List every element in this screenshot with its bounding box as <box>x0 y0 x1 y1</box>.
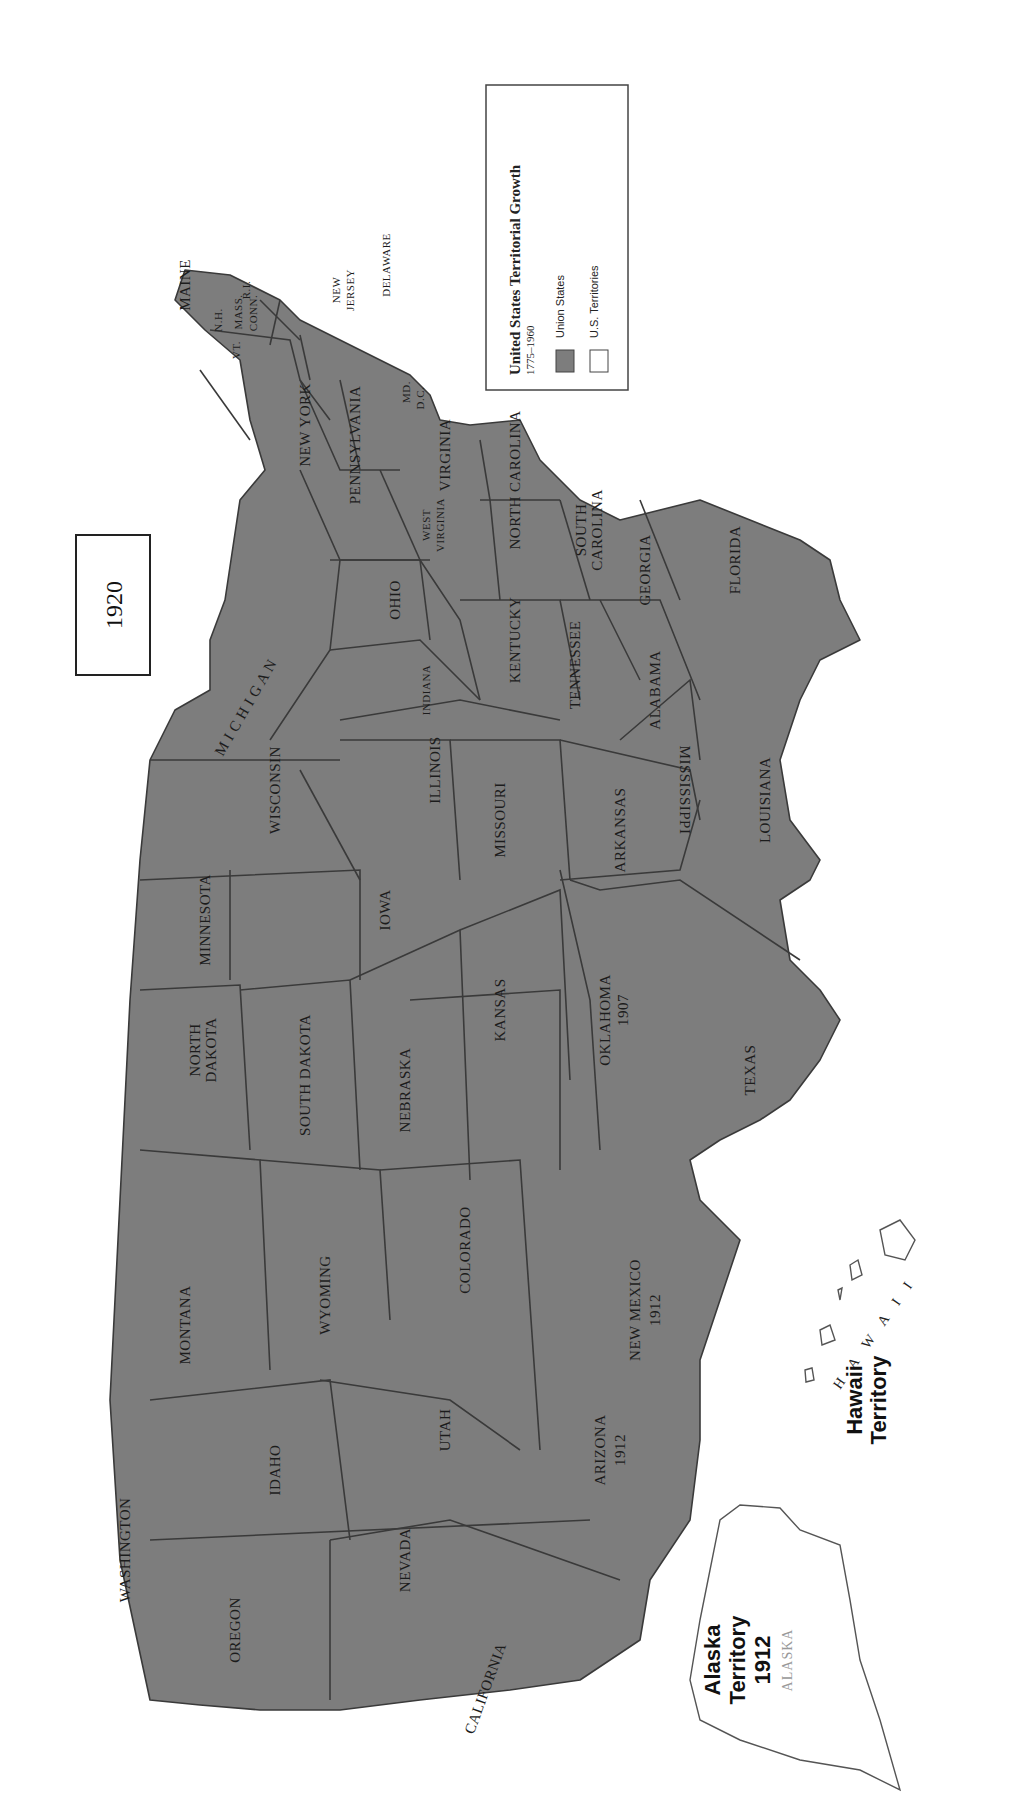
label-mississippi: MISSISSIPPI <box>677 746 693 835</box>
label-virginia: VIRGINIA <box>437 419 453 491</box>
label-conn: CONN. <box>247 295 259 331</box>
label-tennessee: TENNESSEE <box>567 621 583 710</box>
label-arizona-year: 1912 <box>612 1434 628 1466</box>
label-nebraska: NEBRASKA <box>397 1048 413 1133</box>
contiguous-us <box>110 270 860 1710</box>
label-new-mexico: NEW MEXICO <box>627 1259 643 1361</box>
label-ri: R.I. <box>240 281 252 300</box>
legend-label-territories: U.S. Territories <box>588 265 600 338</box>
label-north-carolina: NORTH CAROLINA <box>507 410 523 549</box>
label-south-carolina-1: SOUTH <box>573 504 589 557</box>
label-vt: VT. <box>230 341 242 359</box>
legend-swatch-union <box>556 350 574 372</box>
label-utah: UTAH <box>437 1409 453 1451</box>
label-texas: TEXAS <box>742 1045 758 1096</box>
hawaii-territory: H A W A I I Hawaii Territory <box>805 1220 919 1444</box>
label-arkansas: ARKANSAS <box>612 788 628 873</box>
label-new-jersey-2: JERSEY <box>344 269 356 311</box>
alaska-territory: Alaska Territory 1912 ALASKA <box>690 1505 900 1790</box>
label-indiana: INDIANA <box>420 665 432 716</box>
label-illinois: ILLINOIS <box>427 736 443 803</box>
alaska-label-2: Territory <box>725 1615 750 1705</box>
label-wyoming: WYOMING <box>317 1255 333 1334</box>
label-south-carolina-2: CAROLINA <box>589 489 605 571</box>
year-label: 1920 <box>101 581 127 629</box>
label-pennsylvania: PENNSYLVANIA <box>347 386 363 505</box>
label-georgia: GEORGIA <box>637 535 653 606</box>
label-colorado: COLORADO <box>457 1206 473 1293</box>
label-oregon: OREGON <box>227 1597 243 1663</box>
hawaii-label-1: Hawaii <box>842 1365 867 1435</box>
label-maine: MAINE <box>177 259 193 311</box>
label-new-york: NEW YORK <box>297 383 313 467</box>
label-north-dakota-2: DAKOTA <box>203 1017 219 1082</box>
label-ohio: OHIO <box>387 580 403 620</box>
label-montana: MONTANA <box>177 1286 193 1365</box>
label-nh: N.H. <box>212 308 224 331</box>
alaska-label-1: Alaska <box>700 1624 725 1696</box>
label-missouri: MISSOURI <box>492 782 508 858</box>
legend: United States Territorial Growth 1775–19… <box>486 85 628 390</box>
label-alabama: ALABAMA <box>647 650 663 729</box>
label-florida: FLORIDA <box>727 526 743 595</box>
legend-label-union: Union States <box>554 275 566 338</box>
label-nevada: NEVADA <box>397 1528 413 1592</box>
alaska-year: 1912 <box>750 1636 775 1685</box>
legend-swatch-territories <box>590 350 608 372</box>
label-south-dakota: SOUTH DAKOTA <box>297 1014 313 1136</box>
label-idaho: IDAHO <box>267 1445 283 1496</box>
label-kansas: KANSAS <box>492 978 508 1041</box>
label-new-jersey-1: NEW <box>330 277 342 304</box>
label-new-mexico-year: 1912 <box>647 1294 663 1326</box>
alaska-map-label: ALASKA <box>780 1629 795 1692</box>
legend-title: United States Territorial Growth <box>507 164 523 375</box>
label-kentucky: KENTUCKY <box>507 597 523 684</box>
us-territorial-map-1920: 1920 United States Territorial Growth 17… <box>0 0 1018 1804</box>
label-west-virginia-2: VIRGINIA <box>434 498 446 552</box>
label-delaware: DELAWARE <box>380 233 392 297</box>
label-iowa: IOWA <box>377 889 393 930</box>
label-arizona: ARIZONA <box>592 1415 608 1486</box>
label-north-dakota-1: NORTH <box>187 1023 203 1076</box>
label-dc: D.C. <box>414 387 426 410</box>
label-washington: WASHINGTON <box>117 1498 133 1603</box>
label-md: MD. <box>400 381 412 403</box>
label-wisconsin: WISCONSIN <box>267 746 283 834</box>
hawaii-label-2: Territory <box>866 1355 891 1445</box>
label-west-virginia-1: WEST <box>420 509 432 541</box>
label-louisiana: LOUISIANA <box>757 757 773 843</box>
label-oklahoma-year: 1907 <box>615 994 631 1026</box>
label-minnesota: MINNESOTA <box>197 874 213 966</box>
label-oklahoma: OKLAHOMA <box>597 974 613 1066</box>
legend-subtitle: 1775–1960 <box>524 325 536 375</box>
year-box: 1920 <box>76 535 150 675</box>
